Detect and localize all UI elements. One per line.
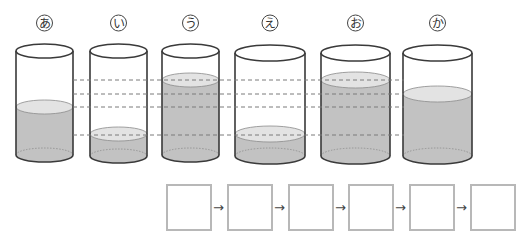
answer-box-5[interactable] xyxy=(409,184,455,231)
arrow-right-icon: → xyxy=(335,201,346,215)
cylinder-label: お xyxy=(348,15,364,31)
cylinder-label: か xyxy=(430,15,446,31)
arrow-right-icon: → xyxy=(213,201,224,215)
cylinder-1: あ xyxy=(16,15,73,162)
water-body xyxy=(321,80,390,164)
cylinder-rim xyxy=(403,45,472,61)
answer-box-2[interactable] xyxy=(227,184,273,231)
cylinders-group: あいうえおか xyxy=(16,15,472,164)
cylinder-label: い xyxy=(111,15,127,31)
svg-text:い: い xyxy=(113,17,125,31)
arrow-right-icon: → xyxy=(456,201,467,215)
cylinder-rim xyxy=(235,45,305,61)
answer-box-4[interactable] xyxy=(348,184,394,231)
water-surface xyxy=(162,73,219,87)
water-surface xyxy=(235,126,305,142)
cylinder-label: あ xyxy=(37,15,53,31)
svg-text:お: お xyxy=(350,17,362,31)
water-surface xyxy=(16,100,73,114)
cylinder-rim xyxy=(321,45,390,61)
svg-text:え: え xyxy=(264,17,276,31)
water-body xyxy=(16,107,73,162)
arrow-right-icon: → xyxy=(274,201,285,215)
answer-box-3[interactable] xyxy=(288,184,334,231)
cylinder-4: え xyxy=(235,15,305,164)
cylinder-rim xyxy=(16,44,73,58)
arrow-right-icon: → xyxy=(395,201,406,215)
cylinder-3: う xyxy=(162,15,219,162)
water-body xyxy=(403,94,472,164)
cylinder-2: い xyxy=(90,15,147,163)
cylinder-6: か xyxy=(403,15,472,164)
cylinder-5: お xyxy=(321,15,390,164)
water-surface xyxy=(90,127,147,141)
svg-text:う: う xyxy=(185,17,197,31)
cylinder-rim xyxy=(162,44,219,58)
svg-text:か: か xyxy=(432,17,444,31)
answer-box-6[interactable] xyxy=(470,184,516,231)
cylinder-label: う xyxy=(183,15,199,31)
answer-box-1[interactable] xyxy=(166,184,212,231)
cylinder-rim xyxy=(90,44,147,58)
svg-text:あ: あ xyxy=(39,17,51,31)
water-surface xyxy=(403,86,472,102)
cylinder-label: え xyxy=(262,15,278,31)
